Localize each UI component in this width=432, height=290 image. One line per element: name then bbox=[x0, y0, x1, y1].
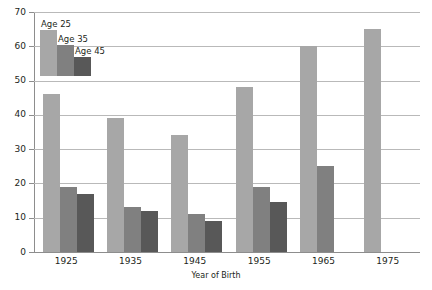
y-axis-tick-label: 0 bbox=[4, 248, 26, 257]
legend-swatch-age-35 bbox=[57, 45, 74, 76]
y-tick-30 bbox=[29, 149, 34, 150]
y-axis-tick-label: 20 bbox=[4, 179, 26, 188]
bar-1935-age-45 bbox=[141, 211, 158, 252]
y-axis-tick-label: 30 bbox=[4, 145, 26, 154]
bar-1945-age-25 bbox=[171, 135, 188, 252]
bar-1965-age-35 bbox=[317, 166, 334, 252]
bar-1955-age-25 bbox=[236, 87, 253, 252]
chart-legend: Age 25Age 35Age 45 bbox=[40, 14, 160, 76]
bar-1955-age-35 bbox=[253, 187, 270, 252]
y-axis-tick-label: 50 bbox=[4, 76, 26, 85]
y-tick-70 bbox=[29, 12, 34, 13]
x-axis-tick-label: 1925 bbox=[34, 256, 98, 266]
bar-1945-age-45 bbox=[205, 221, 222, 252]
x-axis-tick-label: 1945 bbox=[163, 256, 227, 266]
gridline-0 bbox=[34, 252, 420, 253]
bar-1955-age-45 bbox=[270, 202, 287, 252]
x-axis-tick-label: 1935 bbox=[98, 256, 162, 266]
bar-group-1945 bbox=[171, 12, 222, 252]
y-axis-labels: 010203040506070 bbox=[0, 0, 26, 290]
y-axis-tick-label: 10 bbox=[4, 213, 26, 222]
y-tick-20 bbox=[29, 183, 34, 184]
bar-1975-age-25 bbox=[364, 29, 381, 252]
bar-1965-age-25 bbox=[300, 46, 317, 252]
y-axis-tick-label: 60 bbox=[4, 42, 26, 51]
y-tick-0 bbox=[29, 252, 34, 253]
bar-1925-age-45 bbox=[77, 194, 94, 252]
bar-1925-age-25 bbox=[43, 94, 60, 252]
x-axis-tick-label: 1975 bbox=[356, 256, 420, 266]
y-tick-10 bbox=[29, 218, 34, 219]
y-tick-40 bbox=[29, 115, 34, 116]
y-tick-50 bbox=[29, 81, 34, 82]
x-axis-title: Year of Birth bbox=[0, 271, 432, 280]
y-axis-tick-label: 40 bbox=[4, 110, 26, 119]
bar-1935-age-35 bbox=[124, 207, 141, 252]
bar-group-1955 bbox=[236, 12, 287, 252]
y-axis-tick-label: 70 bbox=[4, 8, 26, 17]
bar-1925-age-35 bbox=[60, 187, 77, 252]
x-axis-tick-label: 1965 bbox=[291, 256, 355, 266]
legend-swatch-age-25 bbox=[40, 30, 57, 77]
legend-swatch-age-45 bbox=[74, 57, 91, 76]
bar-chart: 010203040506070 Year of Birth Age 25Age … bbox=[0, 0, 432, 290]
bar-group-1965 bbox=[300, 12, 351, 252]
bar-1935-age-25 bbox=[107, 118, 124, 252]
legend-label-age-25: Age 25 bbox=[41, 20, 71, 29]
bar-1945-age-35 bbox=[188, 214, 205, 252]
x-axis-tick-label: 1955 bbox=[227, 256, 291, 266]
legend-label-age-45: Age 45 bbox=[75, 47, 105, 56]
legend-label-age-35: Age 35 bbox=[58, 35, 88, 44]
y-tick-60 bbox=[29, 46, 34, 47]
bar-group-1975 bbox=[364, 12, 415, 252]
